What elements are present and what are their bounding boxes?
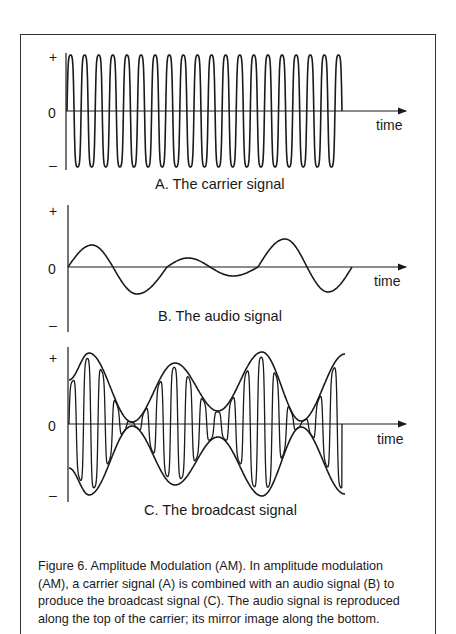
panel-caption: A. The carrier signal	[155, 176, 284, 192]
panel-carrier-signal: + 0 – time A. The carrier signal	[48, 49, 406, 192]
upper-envelope	[69, 352, 345, 422]
caption-line: Figure 6. Amplitude Modulation (AM). In …	[38, 558, 433, 576]
panel-caption: B. The audio signal	[158, 308, 282, 324]
minus-label: –	[49, 157, 57, 173]
plus-label: +	[49, 350, 57, 366]
minus-label: –	[49, 317, 57, 333]
caption-line: (AM), a carrier signal (A) is combined w…	[38, 576, 433, 594]
minus-label: –	[49, 487, 57, 503]
caption-line: along the top of the carrier; its mirror…	[38, 611, 433, 629]
panel-audio-signal: + 0 – time B. The audio signal	[48, 203, 406, 333]
zero-label: 0	[48, 261, 56, 277]
panel-caption: C. The broadcast signal	[144, 502, 297, 518]
time-label: time	[376, 117, 403, 133]
zero-label: 0	[48, 418, 56, 434]
time-label: time	[374, 273, 401, 289]
figure-caption: Figure 6. Amplitude Modulation (AM). In …	[38, 558, 433, 628]
plus-label: +	[49, 203, 57, 219]
plus-label: +	[49, 49, 57, 65]
panel-broadcast-signal: + 0 – time C. The broadcast signal	[48, 347, 406, 518]
time-label: time	[377, 431, 404, 447]
zero-label: 0	[48, 105, 56, 121]
caption-line: produce the broadcast signal (C). The au…	[38, 593, 433, 611]
broadcast-wave	[69, 357, 342, 488]
